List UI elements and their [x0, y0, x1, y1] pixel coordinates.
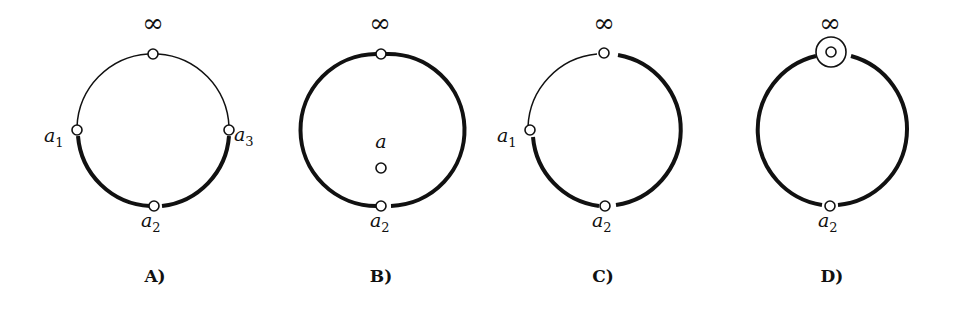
- panel-b: ∞ a a2: [300, 8, 464, 235]
- node-infinity: [599, 48, 609, 58]
- label-infinity: ∞: [819, 8, 841, 38]
- panel-d: ∞ a2: [758, 8, 907, 235]
- thick-arc-c-lower-left: [533, 137, 599, 206]
- panel-c: ∞ a1 a2: [497, 8, 681, 235]
- label-a3: a3: [234, 123, 254, 149]
- thin-arc-c-upper-left: [528, 54, 597, 127]
- thick-arc-b-left: [300, 54, 377, 206]
- caption-a: A): [144, 266, 165, 286]
- label-infinity: ∞: [142, 8, 164, 38]
- node-a1: [525, 125, 535, 135]
- node-a1: [72, 125, 82, 135]
- label-a2: a2: [141, 209, 161, 235]
- label-a2: a2: [592, 209, 612, 235]
- node-infinity: [826, 47, 836, 57]
- thick-arc-a-lower-left: [78, 136, 150, 206]
- thin-arc-a-upper-right: [158, 54, 229, 127]
- node-a3: [224, 125, 234, 135]
- thick-arc-b-right: [386, 54, 465, 206]
- thick-arc-c-right: [616, 55, 681, 205]
- thick-arc-a-lower-right: [162, 136, 229, 206]
- thick-arc-d-right: [838, 56, 907, 205]
- figure-canvas: ∞ a1 a3 a2 ∞ a a2 ∞ a1 a2 ∞ a2: [0, 0, 956, 311]
- node-infinity: [148, 49, 158, 59]
- panel-a: ∞ a1 a3 a2: [44, 8, 254, 235]
- label-a: a: [375, 130, 386, 152]
- caption-b: B): [370, 266, 392, 286]
- label-a1: a1: [44, 124, 64, 150]
- caption-d: D): [821, 266, 844, 286]
- caption-c: C): [592, 266, 614, 286]
- thin-arc-a-upper-left: [77, 54, 148, 127]
- label-a2: a2: [370, 209, 390, 235]
- thick-arc-d-left: [758, 56, 822, 205]
- label-infinity: ∞: [369, 8, 391, 38]
- node-infinity: [376, 49, 386, 59]
- label-a1: a1: [497, 124, 517, 150]
- interior-point-a: [376, 163, 386, 173]
- label-a2: a2: [818, 209, 838, 235]
- label-infinity: ∞: [593, 8, 615, 38]
